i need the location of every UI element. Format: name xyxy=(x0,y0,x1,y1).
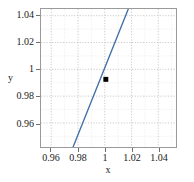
y-tick-label-0.96: 0.96 xyxy=(0,119,34,129)
x-tick-label-0.96: 0.96 xyxy=(42,153,60,163)
y-tickmark xyxy=(36,42,40,43)
y-axis-label: y xyxy=(8,73,13,83)
x-tick-label-0.98: 0.98 xyxy=(69,153,87,163)
y-tick-label-1.02: 1.02 xyxy=(0,37,34,47)
y-tickmark xyxy=(36,69,40,70)
data-layer xyxy=(41,9,176,147)
chart-figure: 1.04 1.02 1 0.98 0.96 0.96 0.98 1 1.02 1… xyxy=(0,0,194,182)
x-axis-label: x xyxy=(106,165,111,175)
y-tick-label-0.98: 0.98 xyxy=(0,91,34,101)
y-tick-label-1.04: 1.04 xyxy=(0,10,34,20)
y-tickmark xyxy=(36,96,40,97)
plot-area xyxy=(40,8,177,148)
series-line xyxy=(73,9,128,147)
x-tick-label-1: 1 xyxy=(103,153,108,163)
x-tick-label-1.02: 1.02 xyxy=(123,153,141,163)
x-tick-label-1.04: 1.04 xyxy=(150,153,168,163)
y-tickmark xyxy=(36,15,40,16)
data-point-marker xyxy=(103,77,108,82)
y-tick-label-1: 1 xyxy=(0,64,34,74)
y-tickmark xyxy=(36,124,40,125)
